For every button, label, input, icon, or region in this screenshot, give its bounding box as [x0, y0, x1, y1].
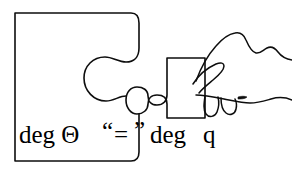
equation-right-term-symbol: q	[203, 121, 216, 148]
hand-back-contour	[196, 33, 292, 81]
equation-right-term-prefix: deg	[150, 121, 192, 148]
small-puzzle-piece	[126, 58, 205, 118]
index-finger	[204, 96, 219, 116]
figure-canvas: deg Θ “ = ” deg q	[0, 0, 292, 178]
equals-sign: =	[114, 121, 128, 148]
puzzle-diagram-svg: deg Θ “ = ” deg q	[0, 0, 292, 178]
close-quote-mark: ”	[134, 117, 145, 144]
fingernail-icon	[238, 96, 247, 99]
equation-left-term: deg Θ	[19, 121, 79, 148]
open-quote-mark: “	[102, 117, 113, 144]
